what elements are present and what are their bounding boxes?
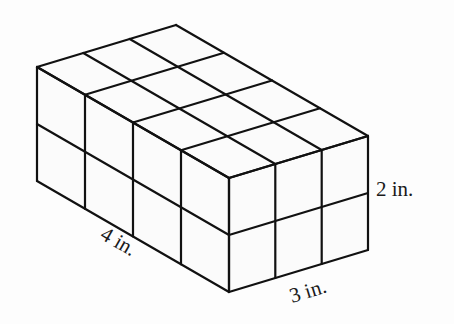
prism-faces <box>37 25 368 292</box>
height-label: 2 in. <box>376 177 413 201</box>
width-label: 3 in. <box>286 274 329 308</box>
cube-prism-diagram: 2 in. 3 in. 4 in. <box>0 0 454 324</box>
